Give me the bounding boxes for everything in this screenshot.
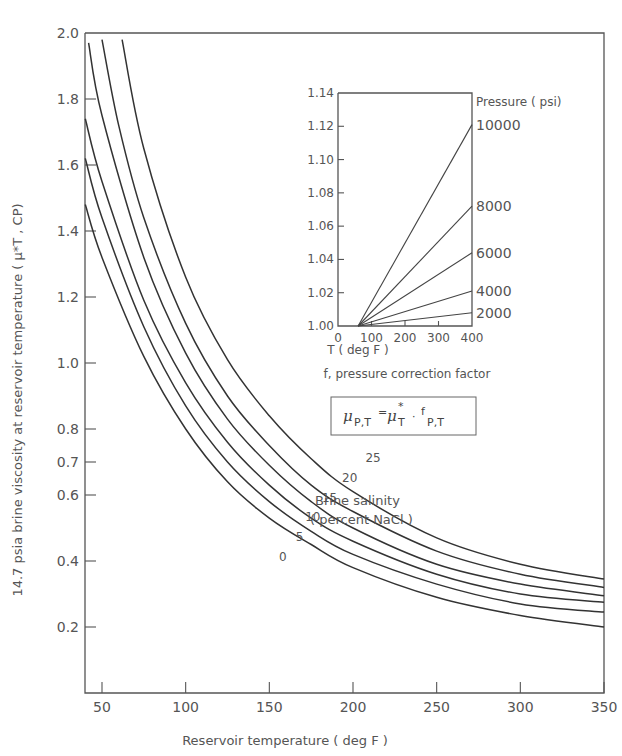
formula-box: μ P,T = μ * T · f P,T	[331, 397, 476, 435]
inset-lines	[358, 125, 472, 326]
pressure-label-4000: 4000	[476, 283, 512, 299]
y-tick-label: 1.4	[57, 223, 79, 239]
salinity-curve-5	[85, 158, 604, 612]
legend-title: Brine salinity	[315, 493, 400, 508]
main-curves	[85, 40, 604, 627]
inset-y-tick-label: 1.06	[307, 219, 334, 233]
inset-frame	[338, 93, 472, 326]
y-tick-label: 0.2	[57, 619, 79, 635]
formula-lhs-sub: P,T	[354, 416, 371, 429]
formula-dot: ·	[412, 410, 416, 423]
inset-y-tick-label: 1.04	[307, 252, 334, 266]
inset-y-tick-label: 1.14	[307, 86, 334, 100]
formula-mu-star: *	[398, 400, 404, 413]
x-tick-label: 50	[93, 699, 111, 715]
y-tick-label: 0.6	[57, 487, 79, 503]
inset-y-tick-label: 1.10	[307, 153, 334, 167]
formula-mu-sub: T	[397, 416, 405, 429]
inset-title: f, pressure correction factor	[324, 367, 491, 381]
pressure-label-2000: 2000	[476, 305, 512, 321]
formula-lhs: μ	[343, 407, 353, 425]
y-axis-label: 14.7 psia brine viscosity at reservoir t…	[10, 203, 25, 596]
inset-x-tick-label: 300	[427, 331, 450, 345]
pressure-label-8000: 8000	[476, 198, 512, 214]
inset-x-label: T ( deg F )	[326, 343, 388, 357]
main-plot-frame	[85, 33, 604, 693]
inset-line-labels: 200040006000800010000	[476, 117, 521, 321]
inset-y-tick-label: 1.12	[307, 119, 334, 133]
formula-equals: =	[378, 406, 387, 419]
formula-f: f	[421, 405, 426, 418]
x-tick-label: 300	[507, 699, 534, 715]
inset-x-tick-label: 200	[394, 331, 417, 345]
legend-subtitle: ( percent NaCl )	[310, 512, 413, 527]
pressure-label-10000: 10000	[476, 117, 521, 133]
curve-label-5: 5	[296, 530, 304, 544]
inset-x-tick-label: 400	[461, 331, 484, 345]
y-tick-label: 1.6	[57, 157, 79, 173]
viscosity-chart: 501001502002503003500.20.40.60.70.81.01.…	[0, 0, 622, 756]
curve-label-0: 0	[279, 550, 287, 564]
y-tick-label: 1.0	[57, 355, 79, 371]
inset-y-tick-label: 1.08	[307, 186, 334, 200]
inset-axes: 01002003004001.001.021.041.061.081.101.1…	[307, 86, 483, 345]
y-tick-label: 2.0	[57, 25, 79, 41]
x-axis-label: Reservoir temperature ( deg F )	[182, 733, 388, 748]
x-tick-label: 200	[340, 699, 367, 715]
formula-f-sub: P,T	[427, 416, 444, 429]
curve-label-25: 25	[365, 451, 380, 465]
y-tick-label: 1.2	[57, 289, 79, 305]
x-tick-label: 250	[423, 699, 450, 715]
inset-y-tick-label: 1.02	[307, 286, 334, 300]
y-tick-label: 1.8	[57, 91, 79, 107]
y-tick-label: 0.4	[57, 553, 79, 569]
inset-y-tick-label: 1.00	[307, 319, 334, 333]
x-tick-label: 350	[591, 699, 618, 715]
formula-mu: μ	[387, 407, 397, 425]
pressure-label-6000: 6000	[476, 245, 512, 261]
y-tick-label: 0.8	[57, 421, 79, 437]
salinity-curve-10	[85, 119, 604, 603]
inset-chart: 01002003004001.001.021.041.061.081.101.1…	[307, 86, 561, 381]
x-tick-label: 100	[172, 699, 199, 715]
y-tick-label: 0.7	[57, 454, 79, 470]
x-tick-label: 150	[256, 699, 283, 715]
inset-legend-title: Pressure ( psi)	[476, 95, 561, 109]
curve-label-20: 20	[342, 471, 357, 485]
